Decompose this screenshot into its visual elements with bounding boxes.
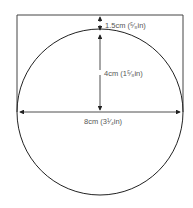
diameter-label: 8cm (3¹⁄₄in)	[84, 117, 122, 126]
circle-template-diagram	[0, 0, 193, 208]
top-gap-label: 1.5cm (⁵⁄₈in)	[105, 21, 146, 30]
radius-label: 4cm (1⁵⁄₈in)	[104, 69, 143, 78]
